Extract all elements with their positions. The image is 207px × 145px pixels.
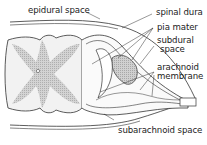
label-epidural-space: epidural space [28,6,90,15]
dura-top-inner [10,24,118,29]
central-canal [36,69,39,72]
label-spinal-dura: spinal dura [156,8,203,17]
label-arachnoid-membrane-2: membrane [157,72,203,81]
label-subdural-space-2: space [160,45,185,54]
label-subarachnoid-space: subarachnoid space [118,126,202,135]
label-pia-mater: pia mater [157,23,198,32]
nerve-end [180,98,196,106]
